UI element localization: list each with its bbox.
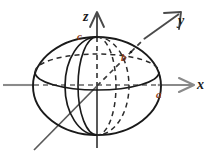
point-b-marker [130, 51, 133, 54]
point-c-marker [96, 36, 99, 39]
semi-axis-label-a: a [156, 89, 162, 100]
y-axis-label: y [178, 14, 184, 28]
point-a-marker [158, 84, 161, 87]
semi-axis-label-c: c [77, 31, 82, 42]
y-axis-positive-segment [144, 14, 179, 39]
x-axis-label: x [197, 78, 204, 92]
semi-axis-label-b: b [121, 52, 127, 63]
ellipsoid-diagram: z y x c b a [0, 0, 212, 156]
z-axis-label: z [83, 10, 88, 24]
